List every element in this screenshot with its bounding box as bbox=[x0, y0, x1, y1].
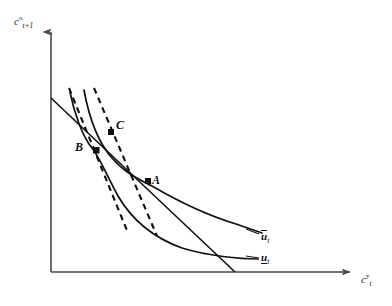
point-marker-A bbox=[145, 178, 151, 184]
compensated-budget-line-at-B bbox=[69, 88, 128, 233]
point-marker-B bbox=[93, 147, 100, 154]
leader-line-u-under bbox=[246, 256, 259, 258]
points-group bbox=[93, 129, 151, 184]
indifference-curve-lower bbox=[70, 92, 258, 259]
indifference-curve-plot bbox=[0, 0, 392, 306]
point-label-b: B bbox=[75, 141, 83, 153]
x-axis-label: cyt bbox=[361, 274, 371, 285]
compensated-budget-line-at-C bbox=[94, 88, 157, 236]
indifference-curve-upper bbox=[84, 90, 262, 233]
y-axis-label-subscript: t+1 bbox=[22, 21, 33, 30]
curve-label-u-bar: ut bbox=[261, 230, 269, 242]
point-marker-C bbox=[108, 129, 114, 135]
y-axis-label: cot+1 bbox=[14, 16, 33, 27]
curve-label-u-under: ut bbox=[261, 252, 269, 264]
point-label-c: C bbox=[116, 119, 124, 131]
point-label-a: A bbox=[152, 174, 160, 186]
figure-container: cot+1 cyt A B C ut ut bbox=[0, 0, 392, 306]
dashed-lines-group bbox=[69, 88, 157, 236]
